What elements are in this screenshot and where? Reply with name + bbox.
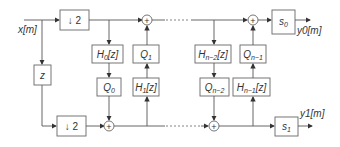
h0-label: H0[z] bbox=[97, 49, 119, 61]
svg-text:+: + bbox=[144, 16, 149, 26]
delay-label: z bbox=[39, 70, 45, 81]
downsample-bottom-label: ↓ 2 bbox=[65, 121, 79, 132]
svg-text:+: + bbox=[250, 16, 255, 26]
h1-label: H1[z] bbox=[135, 82, 157, 94]
downsample-top-label: ↓ 2 bbox=[68, 15, 82, 26]
filterbank-diagram: ↓ 2 ↓ 2 z H0[z] Q0 + H1[z] Q1 + Hn−2[z] … bbox=[0, 0, 340, 147]
svg-text:+: + bbox=[211, 122, 216, 132]
output-y1-label: y1[m] bbox=[300, 108, 324, 119]
input-label: x[m] bbox=[18, 24, 37, 35]
output-y0-label: y0[m] bbox=[297, 25, 321, 36]
delay-to-downsample bbox=[42, 85, 56, 126]
svg-text:+: + bbox=[106, 122, 111, 132]
